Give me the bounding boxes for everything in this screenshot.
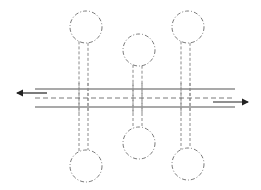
bottom-bulb-3 <box>172 148 204 180</box>
branch-stems <box>79 41 190 151</box>
bottom-bulb-2 <box>123 127 155 159</box>
main-rails <box>35 89 235 107</box>
bottom-bulb-1 <box>70 150 102 182</box>
top-bulb-1 <box>70 11 102 43</box>
branch-diagram <box>0 0 261 190</box>
top-bulb-3 <box>172 11 204 43</box>
branch-bulbs <box>70 11 204 182</box>
top-bulb-2 <box>123 34 155 66</box>
